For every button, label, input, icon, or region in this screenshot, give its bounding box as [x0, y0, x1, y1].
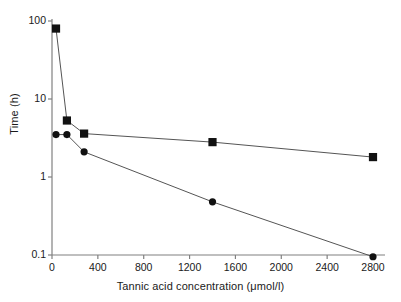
x-tick-label: 1200	[170, 261, 210, 273]
axes	[52, 19, 385, 255]
marker-square-0-4	[369, 153, 377, 161]
data-series	[52, 24, 377, 260]
marker-circle-1-4	[369, 253, 376, 260]
marker-square-0-1	[63, 116, 71, 124]
y-tick-label: 10	[34, 92, 46, 104]
marker-circle-1-2	[81, 148, 88, 155]
x-tick-label: 2800	[353, 261, 393, 273]
x-tick-label: 2400	[307, 261, 347, 273]
y-axis-label: Time (h)	[8, 78, 20, 150]
y-tick-label: 0.1	[31, 248, 46, 260]
x-tick-label: 2000	[261, 261, 301, 273]
marker-circle-1-0	[52, 131, 59, 138]
marker-circle-1-1	[63, 131, 70, 138]
y-tick-label: 100	[28, 14, 46, 26]
marker-circle-1-3	[209, 198, 216, 205]
marker-square-0-0	[52, 24, 60, 32]
x-tick-label: 1600	[215, 261, 255, 273]
marker-square-0-3	[208, 138, 216, 146]
x-tick-label: 0	[32, 261, 72, 273]
y-tick-label: 1	[40, 170, 46, 182]
x-tick-label: 800	[124, 261, 164, 273]
chart-figure: Time (h) Tannic acid concentration (μmol…	[0, 0, 401, 302]
plot-area	[0, 0, 401, 302]
x-axis-label: Tannic acid concentration (μmol/l)	[0, 280, 401, 292]
marker-square-0-2	[80, 130, 88, 138]
x-tick-label: 400	[78, 261, 118, 273]
series-line-squares	[56, 29, 373, 158]
